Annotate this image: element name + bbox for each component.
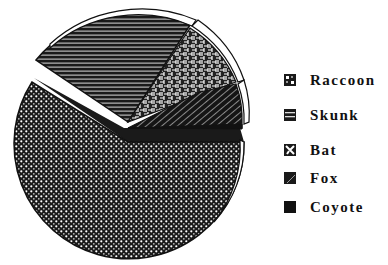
legend-label: Raccoon [310, 72, 376, 89]
coyote-pattern-swatch-icon [284, 201, 296, 213]
bat-pattern-swatch-icon [284, 144, 296, 156]
legend-item-coyote: Coyote [284, 199, 364, 215]
skunk-pattern-swatch-icon [284, 109, 296, 121]
pie-chart [0, 0, 270, 265]
legend-label: Fox [310, 170, 339, 187]
fox-pattern-swatch-icon [284, 172, 296, 184]
legend-item-raccoon: Raccoon [284, 72, 376, 88]
legend-label: Coyote [310, 199, 364, 216]
legend-item-bat: Bat [284, 142, 337, 158]
raccoon-pattern-swatch-icon [284, 74, 296, 86]
legend-item-fox: Fox [284, 170, 339, 186]
legend-label: Bat [310, 142, 337, 159]
legend-label: Skunk [310, 107, 359, 124]
legend-item-skunk: Skunk [284, 107, 359, 123]
